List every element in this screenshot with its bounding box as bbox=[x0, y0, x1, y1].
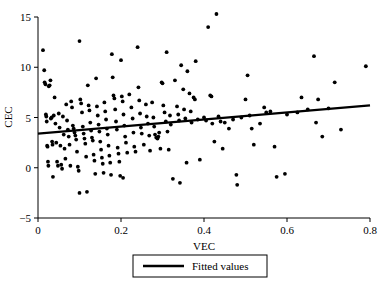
scatter-point bbox=[137, 99, 141, 103]
scatter-point bbox=[51, 175, 55, 179]
scatter-point bbox=[67, 135, 71, 139]
scatter-point bbox=[44, 82, 48, 86]
scatter-point bbox=[86, 83, 90, 87]
scatter-point bbox=[189, 110, 193, 114]
scatter-point bbox=[83, 137, 87, 141]
scatter-point bbox=[123, 135, 127, 139]
y-tick-label: 15 bbox=[20, 11, 32, 23]
scatter-point bbox=[116, 146, 120, 150]
scatter-point bbox=[147, 134, 151, 138]
scatter-point bbox=[68, 143, 72, 147]
scatter-point bbox=[103, 101, 107, 105]
x-tick-label: 0.6 bbox=[280, 224, 294, 236]
scatter-point bbox=[97, 123, 101, 127]
scatter-point bbox=[111, 75, 115, 79]
legend-label-fitted-values: Fitted values bbox=[192, 260, 249, 272]
scatter-point bbox=[63, 147, 67, 151]
scatter-point bbox=[61, 115, 65, 119]
scatter-point bbox=[221, 147, 225, 151]
scatter-point bbox=[125, 151, 129, 155]
scatter-point bbox=[119, 58, 123, 62]
scatter-point bbox=[320, 135, 324, 139]
y-axis-title: CEC bbox=[2, 106, 14, 127]
scatter-point bbox=[75, 150, 79, 154]
scatter-point bbox=[51, 143, 55, 147]
scatter-point bbox=[46, 160, 50, 164]
scatter-point bbox=[129, 106, 133, 110]
scatter-point bbox=[316, 98, 320, 102]
scatter-point bbox=[98, 140, 102, 144]
scatter-point bbox=[79, 102, 83, 106]
scatter-point bbox=[103, 110, 107, 114]
scatter-point bbox=[210, 95, 214, 99]
scatter-point bbox=[93, 172, 97, 176]
scatter-point bbox=[179, 63, 183, 67]
scatter-point bbox=[198, 158, 202, 162]
scatter-point bbox=[134, 150, 138, 154]
scatter-point bbox=[176, 113, 180, 117]
scatter-point bbox=[138, 112, 142, 116]
scatter-point bbox=[185, 161, 189, 165]
scatter-points-group bbox=[41, 12, 368, 195]
scatter-point bbox=[235, 183, 239, 187]
scatter-point bbox=[219, 120, 223, 124]
scatter-point bbox=[78, 191, 82, 195]
scatter-point bbox=[159, 147, 163, 151]
scatter-point bbox=[144, 103, 148, 107]
y-tick-label: 0 bbox=[26, 162, 32, 174]
scatter-point bbox=[54, 122, 58, 126]
scatter-point bbox=[74, 138, 78, 142]
scatter-point bbox=[93, 159, 97, 163]
x-axis-title: VEC bbox=[193, 240, 215, 252]
scatter-point bbox=[165, 50, 169, 54]
scatter-point bbox=[121, 176, 125, 180]
scatter-point bbox=[246, 73, 250, 77]
scatter-point bbox=[101, 162, 105, 166]
scatter-point bbox=[173, 78, 177, 82]
scatter-point bbox=[76, 165, 80, 169]
scatter-point bbox=[106, 133, 110, 137]
scatter-point bbox=[258, 122, 262, 126]
scatter-point bbox=[78, 98, 82, 102]
scatter-point bbox=[73, 134, 77, 138]
x-tick-label: 0.4 bbox=[197, 224, 211, 236]
scatter-point bbox=[88, 121, 92, 125]
scatter-point bbox=[215, 12, 219, 16]
scatter-point bbox=[127, 92, 131, 96]
scatter-point bbox=[193, 98, 197, 102]
scatter-point bbox=[108, 161, 112, 165]
scatter-point bbox=[70, 106, 74, 110]
scatter-point bbox=[114, 120, 118, 124]
scatter-point bbox=[148, 149, 152, 153]
y-tick-label: 10 bbox=[20, 61, 32, 73]
scatter-point bbox=[63, 157, 67, 161]
scatter-point bbox=[82, 132, 86, 136]
scatter-point bbox=[107, 154, 111, 158]
scatter-point bbox=[59, 163, 63, 167]
scatter-point bbox=[314, 121, 318, 125]
scatter-point bbox=[182, 108, 186, 112]
scatter-point bbox=[171, 177, 175, 181]
scatter-point bbox=[210, 122, 214, 126]
y-tick-label: −5 bbox=[19, 212, 31, 224]
x-tick-label: 0 bbox=[35, 224, 41, 236]
scatter-plot-figure: −5051015 00.20.40.60.8 VEC CEC Fitted va… bbox=[0, 0, 384, 282]
scatter-point bbox=[150, 101, 154, 105]
scatter-point bbox=[44, 115, 48, 119]
x-tick-label: 0.8 bbox=[363, 224, 377, 236]
scatter-point bbox=[212, 140, 216, 144]
scatter-point bbox=[206, 25, 210, 29]
scatter-point bbox=[100, 156, 104, 160]
scatter-point bbox=[283, 172, 287, 176]
scatter-point bbox=[117, 152, 121, 156]
scatter-point bbox=[136, 45, 140, 49]
scatter-point bbox=[80, 111, 84, 115]
scatter-point bbox=[94, 76, 98, 80]
scatter-point bbox=[157, 131, 161, 135]
scatter-point bbox=[68, 164, 72, 168]
scatter-point bbox=[87, 104, 91, 108]
scatter-point bbox=[168, 114, 172, 118]
scatter-point bbox=[132, 131, 136, 135]
scatter-point bbox=[60, 167, 64, 171]
scatter-point bbox=[223, 121, 227, 125]
